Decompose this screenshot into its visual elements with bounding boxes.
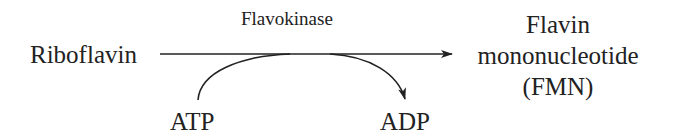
adp-output-arrow: [330, 54, 405, 99]
reaction-arrows: [0, 0, 684, 135]
atp-input-curve: [198, 54, 290, 100]
